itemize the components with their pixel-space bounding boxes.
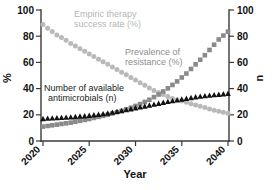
prevalence-line1: Prevalence of: [125, 47, 181, 57]
x-tick-2025: 2025: [65, 143, 89, 167]
x-axis-title: Year: [123, 168, 147, 180]
data-point: [68, 41, 73, 46]
y-right-tick-80: 80: [237, 31, 249, 42]
y-right-tick-100: 100: [237, 5, 254, 16]
y-axis-left-ticks: [36, 10, 41, 141]
data-point: [175, 79, 180, 84]
antimicrobials-line1: Number of available: [44, 83, 124, 93]
data-point: [216, 109, 221, 114]
data-point: [78, 119, 83, 124]
data-point: [189, 67, 194, 72]
y-axis-right-title: n: [253, 74, 265, 81]
x-tick-2035: 2035: [158, 143, 182, 167]
data-point: [45, 26, 50, 31]
data-point: [152, 88, 157, 93]
data-point: [179, 75, 184, 80]
data-point: [142, 83, 147, 88]
data-point: [45, 115, 51, 120]
data-point: [147, 85, 152, 90]
y-axis-left: 100 80 60 40 20 0 %: [1, 5, 41, 147]
data-point: [221, 33, 226, 38]
x-axis-ticks: [43, 141, 228, 146]
prevalence-line2: resistance (%): [125, 57, 183, 67]
data-point: [161, 89, 166, 94]
data-point: [207, 48, 212, 53]
x-axis: 2020 2025 2030 2035 2040 Year: [19, 141, 229, 180]
y-axis-left-title: %: [1, 73, 13, 83]
data-point: [45, 124, 50, 129]
data-point: [82, 49, 87, 54]
data-point: [212, 108, 217, 113]
y-left-tick-60: 60: [23, 57, 35, 68]
data-point: [54, 115, 60, 120]
data-point: [170, 83, 175, 88]
data-point: [202, 105, 207, 110]
data-point: [59, 115, 65, 120]
data-point: [193, 102, 198, 107]
x-tick-2030: 2030: [111, 143, 135, 167]
annotation-prevalence-resistance: Prevalence of resistance (%): [125, 47, 183, 67]
data-point: [133, 78, 138, 83]
data-point: [119, 70, 124, 75]
data-point: [166, 86, 171, 91]
annotation-empiric-therapy: Empiric therapy success rate (%): [74, 9, 141, 29]
data-point: [78, 46, 83, 51]
data-point: [82, 113, 88, 118]
data-point: [225, 91, 231, 96]
data-point: [165, 94, 170, 99]
data-point: [124, 72, 129, 77]
y-axis-right: 100 80 60 40 20 0 n: [229, 5, 265, 147]
data-point: [41, 22, 46, 27]
x-tick-2020: 2020: [19, 143, 43, 167]
data-point: [212, 42, 217, 47]
data-point: [211, 92, 217, 97]
data-point: [68, 114, 74, 119]
data-point: [64, 121, 69, 126]
y-left-tick-40: 40: [23, 83, 35, 94]
data-point: [207, 106, 212, 111]
data-point: [189, 101, 194, 106]
data-series-layer: [40, 22, 231, 129]
y-left-tick-20: 20: [23, 109, 35, 120]
data-point: [128, 75, 133, 80]
data-point: [59, 122, 64, 127]
data-point: [91, 54, 96, 59]
data-point: [216, 37, 221, 42]
data-point: [138, 80, 143, 85]
data-point: [87, 51, 92, 56]
y-right-tick-20: 20: [237, 109, 249, 120]
x-tick-2040: 2040: [204, 143, 228, 167]
data-point: [50, 123, 55, 128]
data-point: [147, 97, 152, 102]
data-point: [63, 114, 69, 119]
y-right-tick-0: 0: [237, 136, 243, 147]
data-point: [226, 111, 231, 116]
y-left-tick-80: 80: [23, 31, 35, 42]
data-point: [203, 53, 208, 58]
data-point: [160, 100, 166, 105]
data-point: [184, 71, 189, 76]
empiric-therapy-line2: success rate (%): [74, 19, 141, 29]
data-point: [77, 113, 83, 118]
data-point: [68, 120, 73, 125]
antimicrobials-line2: antimicrobials (n): [48, 93, 117, 103]
chart-container: 100 80 60 40 20 0 % 2020 2025 2030 2035 …: [0, 0, 272, 190]
data-point: [147, 102, 153, 107]
data-point: [198, 57, 203, 62]
data-point: [110, 64, 115, 69]
data-point: [198, 104, 203, 109]
data-point: [54, 32, 59, 37]
data-point: [64, 38, 69, 43]
data-point: [50, 29, 55, 34]
data-point: [193, 62, 198, 67]
data-point: [96, 57, 101, 62]
y-right-tick-40: 40: [237, 83, 249, 94]
data-point: [152, 95, 157, 100]
data-point: [216, 92, 222, 97]
data-point: [101, 59, 106, 64]
data-point: [59, 35, 64, 40]
data-point: [49, 115, 55, 120]
data-point: [115, 67, 120, 72]
annotation-antimicrobials: Number of available antimicrobials (n): [44, 83, 124, 103]
data-point: [73, 44, 78, 49]
